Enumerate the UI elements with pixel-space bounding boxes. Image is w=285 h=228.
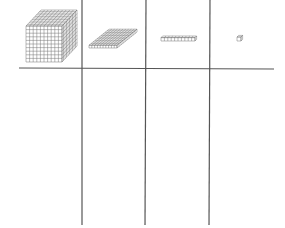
column-divider-3 (209, 0, 210, 225)
tens-rod-icon (161, 36, 197, 41)
thousands-cube-icon (26, 10, 77, 62)
ones-unit-icon (237, 35, 243, 41)
column-divider-2 (145, 0, 146, 225)
chart-frame (19, 0, 274, 225)
place-value-chart (0, 0, 285, 228)
hundreds-flat-icon (89, 29, 137, 48)
header-divider (19, 68, 274, 69)
